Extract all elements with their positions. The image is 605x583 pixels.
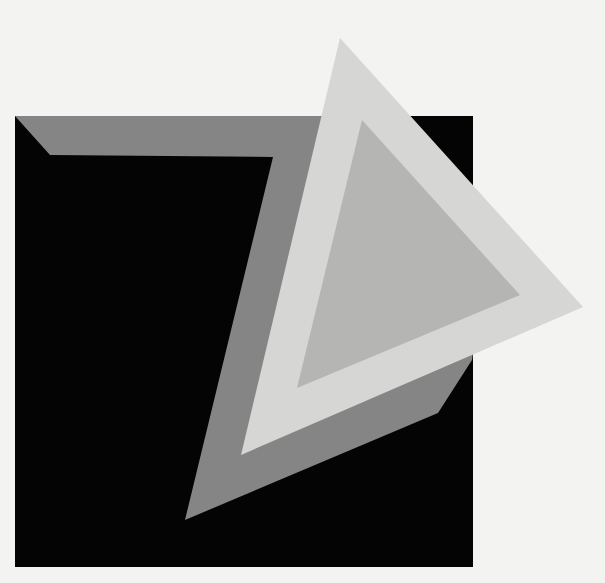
geometric-artwork bbox=[0, 0, 605, 583]
